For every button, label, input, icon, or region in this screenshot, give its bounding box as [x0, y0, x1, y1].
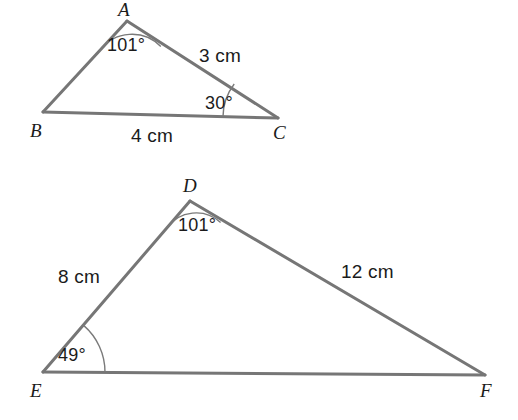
vertex-label-a: A [118, 0, 130, 19]
angle-label-e: 49° [58, 346, 86, 364]
side-label-bc: 4 cm [131, 126, 173, 145]
side-label-df: 12 cm [341, 262, 394, 281]
triangle-def-shape [43, 201, 485, 375]
side-label-ac: 3 cm [199, 46, 241, 65]
angle-label-c: 30° [205, 94, 233, 112]
angle-label-a: 101° [107, 36, 145, 54]
side-ef [43, 372, 485, 375]
angle-label-d: 101° [178, 216, 216, 234]
vertex-label-b: B [30, 121, 42, 140]
side-label-de: 8 cm [58, 267, 100, 286]
angle-arc-e [84, 325, 105, 372]
triangle-abc-shape [43, 21, 278, 118]
vertex-label-f: F [480, 381, 492, 400]
vertex-label-d: D [183, 176, 197, 195]
side-ac [127, 21, 278, 118]
side-df [190, 201, 485, 375]
side-bc [43, 112, 278, 118]
vertex-label-c: C [273, 123, 286, 142]
vertex-label-e: E [30, 381, 42, 400]
geometry-diagram: A B C 3 cm 4 cm 101° 30° D E F 8 cm 12 c… [0, 0, 518, 420]
